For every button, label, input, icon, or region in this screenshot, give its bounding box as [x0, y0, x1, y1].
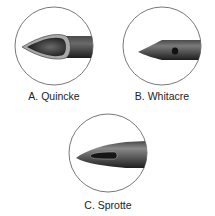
label-whitacre: B. Whitacre [112, 90, 212, 102]
panel-quincke: A. Quincke [0, 0, 108, 108]
sprotte-needle-illustration [56, 106, 160, 198]
side-hole [172, 47, 178, 54]
whitacre-needle-illustration [108, 0, 215, 90]
panel-sprotte: C. Sprotte [56, 106, 160, 216]
label-sprotte: C. Sprotte [58, 199, 158, 211]
label-quincke: A. Quincke [4, 90, 104, 102]
quincke-needle-illustration [0, 0, 108, 90]
panel-whitacre: B. Whitacre [108, 0, 215, 108]
